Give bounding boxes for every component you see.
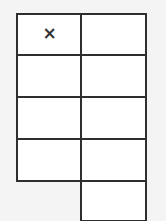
grid-cell-right-1[interactable] xyxy=(80,13,147,56)
grid-cell-right-4[interactable] xyxy=(80,138,147,182)
grid-cell-right-2[interactable] xyxy=(80,54,147,98)
x-mark-icon: × xyxy=(42,25,56,42)
grid-cell-left-4[interactable] xyxy=(16,138,83,182)
grid-cell-right-3[interactable] xyxy=(80,96,147,140)
grid-cell-left-3[interactable] xyxy=(16,96,83,140)
grid-cell-right-5[interactable] xyxy=(80,180,147,221)
grid-cell-left-1[interactable]: × xyxy=(16,13,83,56)
grid-cell-left-2[interactable] xyxy=(16,54,83,98)
